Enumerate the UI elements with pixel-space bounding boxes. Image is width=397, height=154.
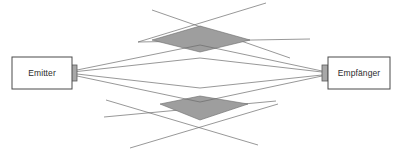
diagram-canvas: Emitter Empfänger	[0, 0, 397, 154]
shaded-zone-group	[152, 26, 250, 120]
ray-upper-inner	[77, 58, 322, 72]
upper-fresnel-zone	[152, 26, 250, 52]
receiver-label: Empfänger	[338, 68, 381, 78]
ray-lower-inner	[77, 74, 322, 88]
ray-group	[77, 45, 322, 102]
receiver-node[interactable]: Empfänger	[322, 57, 390, 89]
receiver-antenna-tab-icon	[322, 65, 328, 81]
lower-fresnel-zone	[160, 96, 248, 120]
emitter-label: Emitter	[28, 68, 56, 78]
emitter-node[interactable]: Emitter	[12, 57, 77, 89]
cross-line-group	[104, 3, 310, 148]
network-path-diagram: Emitter Empfänger	[0, 0, 397, 154]
